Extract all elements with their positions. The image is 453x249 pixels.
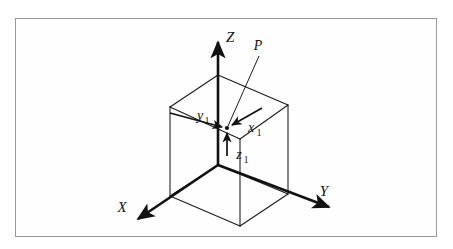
coordinate-diagram: Z X Y P y 1 x 1 z 1 — [0, 0, 453, 249]
cube-edge-top-back-right — [218, 75, 288, 105]
cube-edge-bottom-front-right — [240, 194, 288, 226]
z-axis-label: Z — [226, 29, 235, 45]
figure-page: Z X Y P y 1 x 1 z 1 — [0, 0, 453, 249]
cube-edge-bottom-front-left — [170, 196, 240, 226]
axes-group — [138, 42, 329, 219]
y1-label: y 1 — [195, 108, 210, 126]
y-axis-line — [218, 165, 329, 207]
point-p-marker — [225, 126, 229, 130]
point-p-label: P — [253, 38, 263, 53]
y-axis-label: Y — [320, 183, 330, 199]
y1-label-base: y — [195, 108, 204, 123]
cube-wireframe — [170, 75, 288, 226]
cube-edge-top-back-left — [170, 75, 218, 107]
z1-label-base: z — [235, 147, 242, 162]
y1-label-subscript: 1 — [205, 116, 210, 126]
x1-label-base: x — [247, 120, 255, 135]
x-axis-label: X — [116, 199, 127, 215]
x1-label-subscript: 1 — [257, 128, 262, 138]
z1-label: z 1 — [235, 147, 248, 165]
z1-label-subscript: 1 — [244, 155, 249, 165]
